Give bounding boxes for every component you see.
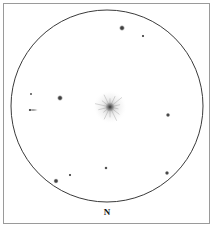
star-right-mid [166, 113, 171, 118]
star-upper-right-bright [119, 25, 125, 31]
star-mid-left-bright [57, 95, 63, 101]
finder-chart: N [0, 0, 215, 230]
star-lower-left-faint [69, 174, 72, 177]
star-lower-left-bright [53, 178, 58, 183]
star-lower-mid [104, 166, 108, 170]
star-upper-right-faint [142, 35, 145, 38]
edge-on-galaxy [28, 108, 39, 111]
sky-field-plot [0, 0, 215, 230]
central-nebulous-object [93, 90, 127, 124]
star-lower-right [165, 171, 170, 176]
deep-sky-objects-layer [28, 90, 128, 124]
north-orientation-label: N [87, 208, 127, 217]
star-left-upper-faint [30, 93, 32, 95]
